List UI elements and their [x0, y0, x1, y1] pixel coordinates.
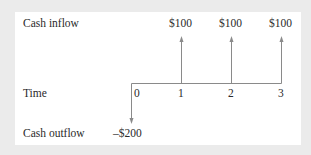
arrowhead-up-icon: [230, 36, 234, 42]
cash-outflow-label: Cash outflow: [23, 128, 85, 140]
arrowhead-up-icon: [280, 36, 284, 42]
inflow-amount-3: $100: [269, 18, 292, 30]
time-label: Time: [23, 88, 47, 100]
inflow-amount-2: $100: [219, 18, 242, 30]
outflow-amount-0: –$200: [113, 128, 142, 140]
arrowhead-up-icon: [180, 36, 184, 42]
arrowhead-down-icon: [130, 118, 134, 124]
diagram-frame: Cash inflow Time Cash outflow $100 $100 …: [0, 0, 311, 155]
period-label-2: 2: [228, 88, 234, 100]
period-label-1: 1: [178, 88, 184, 100]
inflow-amount-1: $100: [169, 18, 192, 30]
period-label-3: 3: [278, 88, 284, 100]
period-label-0: 0: [134, 88, 140, 100]
cash-inflow-label: Cash inflow: [23, 18, 79, 30]
